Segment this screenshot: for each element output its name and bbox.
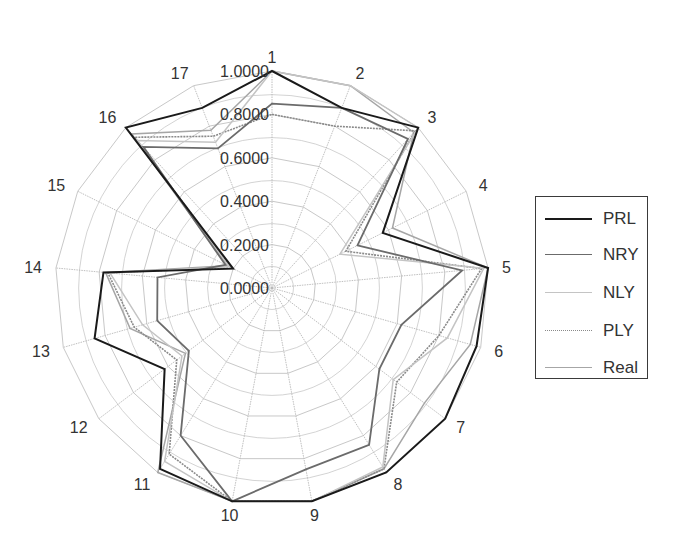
legend-item-nry: NRY: [536, 245, 647, 265]
legend-item-nly: NLY: [536, 283, 647, 303]
axis-label-11: 11: [134, 476, 151, 493]
radial-tick-label: 0.4000: [220, 193, 269, 210]
axis-label-13: 13: [32, 343, 50, 360]
radial-tick-label: 1.0000: [220, 63, 269, 80]
axis-label-15: 15: [47, 177, 65, 194]
axis-label-8: 8: [394, 476, 403, 493]
legend-label: Real: [603, 358, 638, 378]
legend-label: PRL: [603, 209, 636, 229]
legend-label: PLY: [603, 321, 634, 341]
radial-tick-label: 0.0000: [220, 280, 269, 297]
axis-label-14: 14: [24, 259, 42, 276]
axis-label-10: 10: [221, 507, 239, 524]
radial-tick-label: 0.2000: [220, 237, 269, 254]
legend-label: NRY: [603, 245, 639, 265]
axis-label-12: 12: [70, 419, 88, 436]
legend: PRL NRY NLY PLY Real: [535, 196, 648, 379]
legend-swatch-ply: [545, 330, 592, 331]
radial-tick-label: 0.6000: [220, 150, 269, 167]
axis-spoke: [272, 86, 350, 288]
axis-label-1: 1: [268, 49, 277, 66]
axis-label-17: 17: [171, 65, 189, 82]
legend-swatch-nry: [545, 254, 592, 255]
axis-label-4: 4: [479, 177, 488, 194]
legend-swatch-prl: [545, 218, 592, 220]
legend-item-real: Real: [536, 358, 647, 378]
series-real: [106, 71, 488, 501]
legend-label: NLY: [603, 283, 635, 303]
radial-tick-label: 0.8000: [220, 106, 269, 123]
legend-item-ply: PLY: [536, 321, 647, 341]
grid-rings: [56, 71, 488, 501]
axis-label-2: 2: [355, 65, 364, 82]
grid-spokes: [56, 71, 488, 501]
legend-item-prl: PRL: [536, 209, 647, 229]
axis-label-6: 6: [494, 343, 503, 360]
axis-label-5: 5: [502, 259, 511, 276]
legend-swatch-nly: [545, 292, 592, 293]
axis-label-16: 16: [99, 109, 117, 126]
axis-spoke: [272, 288, 445, 419]
grid-ring: [56, 71, 488, 501]
axis-spoke: [272, 268, 488, 288]
legend-swatch-real: [545, 367, 592, 368]
axis-label-7: 7: [456, 419, 465, 436]
axis-label-3: 3: [428, 109, 437, 126]
axis-label-9: 9: [310, 507, 319, 524]
